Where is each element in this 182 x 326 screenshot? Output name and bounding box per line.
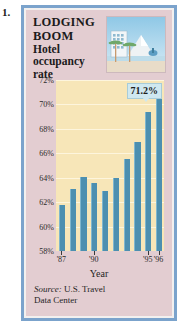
source-line-2: Data Center [34,295,77,305]
y-axis-tick-label: 70% [39,100,54,109]
bar [156,90,162,251]
y-axis-tick-label: 72% [39,76,54,85]
source-text: U.S. Travel [62,284,106,294]
x-axis-tick-label: '95 [143,255,152,264]
callout-pointer-icon [142,97,150,102]
gridline [56,104,164,105]
y-axis-tick-label: 62% [39,198,54,207]
subhead-line-1: Hotel [33,43,109,55]
bar [80,177,86,252]
x-axis-tick-label: '87 [57,255,66,264]
bar [102,191,108,251]
chart-plot-region: 72%70%68%66%64%62%60%58% 71.2% '87'90'95… [26,80,172,265]
beach-resort-hotel-illustration [106,16,166,73]
y-axis: 72%70%68%66%64%62%60%58% [28,80,54,265]
bar [145,112,151,251]
x-axis-tick-label: '96 [154,255,163,264]
headline-line-2: BOOM [33,30,109,44]
headline-line-1: LODGING [33,16,109,30]
headline-block: LODGING BOOM Hotel occupancy rate [33,16,109,80]
bar [70,189,76,251]
y-axis-tick-label: 66% [39,149,54,158]
y-axis-tick-label: 68% [39,124,54,133]
x-axis-label: Year [26,268,172,279]
infographic-panel: LODGING BOOM Hotel occupancy rate [21,5,177,321]
x-axis-tick-label: '90 [89,255,98,264]
plot-area: 71.2% [56,80,164,251]
figure-number: 1. [2,6,10,18]
y-axis-tick-label: 60% [39,222,54,231]
gridline [56,80,164,81]
bar [124,159,130,251]
y-axis-tick-label: 64% [39,173,54,182]
x-axis: '87'90'95'96 [56,251,164,265]
y-axis-tick-label: 58% [39,247,54,256]
bar [134,142,140,251]
subhead-line-2: occupancy [33,55,109,67]
bar [59,205,65,251]
panel-content: LODGING BOOM Hotel occupancy rate [26,10,172,316]
panel-inner-border: LODGING BOOM Hotel occupancy rate [24,8,174,318]
source-note: Source: U.S. Travel Data Center [34,284,154,307]
bar [113,178,119,251]
bar [91,183,97,251]
source-lead: Source: [34,284,62,294]
